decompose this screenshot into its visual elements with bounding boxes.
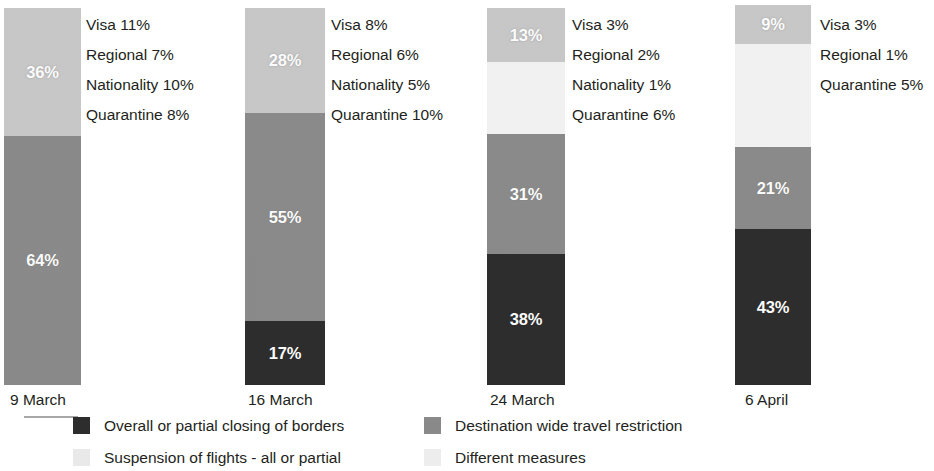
- segment-value-label: 43%: [757, 299, 789, 316]
- breakdown-label: Regional 7%: [86, 40, 194, 70]
- bar-segment[interactable]: 43%: [735, 229, 811, 385]
- legend-item[interactable]: Different measures: [424, 449, 586, 466]
- segment-value-label: 28%: [269, 52, 301, 69]
- bar-segment[interactable]: 13%: [487, 8, 565, 62]
- legend-swatch: [73, 449, 90, 466]
- swatch-texture: [73, 449, 90, 466]
- breakdown-label: Visa 8%: [331, 10, 443, 40]
- bar-stack: 9%21%43%: [735, 5, 811, 385]
- breakdown-label: Visa 3%: [820, 10, 923, 40]
- legend-label: Overall or partial closing of borders: [104, 418, 344, 434]
- breakdown-label: Quarantine 10%: [331, 100, 443, 130]
- bar-segment[interactable]: 9%: [735, 5, 811, 44]
- bar-segment[interactable]: [735, 44, 811, 147]
- breakdown-label: Quarantine 8%: [86, 100, 194, 130]
- breakdown-label: Quarantine 5%: [820, 70, 923, 100]
- bar-segment[interactable]: [487, 62, 565, 134]
- segment-value-label: 38%: [510, 311, 542, 328]
- breakdown-label: Nationality 1%: [572, 70, 675, 100]
- x-axis-category-label: 24 March: [490, 392, 555, 408]
- swatch-texture: [424, 417, 441, 434]
- bar-segment[interactable]: 31%: [487, 134, 565, 254]
- segment-texture: [487, 62, 565, 134]
- breakdown-label: Regional 6%: [331, 40, 443, 70]
- bar-stack: 28%55%17%: [245, 8, 325, 385]
- segment-value-label: 9%: [761, 16, 784, 33]
- bar-breakdown-labels: Visa 11%Regional 7%Nationality 10%Quaran…: [86, 10, 194, 130]
- bar-breakdown-labels: Visa 3%Regional 1%Quarantine 5%: [820, 10, 923, 100]
- breakdown-label: Quarantine 6%: [572, 100, 675, 130]
- legend-label: Suspension of flights - all or partial: [104, 450, 341, 466]
- segment-value-label: 21%: [757, 180, 789, 197]
- breakdown-label: Regional 2%: [572, 40, 675, 70]
- bar-segment[interactable]: 36%: [4, 8, 81, 136]
- legend-label: Different measures: [455, 450, 586, 466]
- bar-segment[interactable]: 17%: [245, 321, 325, 385]
- x-axis-category-label: 16 March: [248, 392, 313, 408]
- segment-value-label: 17%: [269, 345, 301, 362]
- legend-label: Destination wide travel restriction: [455, 418, 682, 434]
- bar-stack: 13%31%38%: [487, 8, 565, 385]
- chart-legend: Overall or partial closing of bordersDes…: [0, 415, 934, 471]
- segment-value-label: 31%: [510, 186, 542, 203]
- bar-segment[interactable]: 55%: [245, 113, 325, 321]
- bar-segment[interactable]: 38%: [487, 254, 565, 385]
- breakdown-label: Visa 11%: [86, 10, 194, 40]
- bar-stack: 36%64%: [4, 8, 81, 385]
- legend-item[interactable]: Destination wide travel restriction: [424, 417, 682, 434]
- bar-breakdown-labels: Visa 3%Regional 2%Nationality 1%Quaranti…: [572, 10, 675, 130]
- segment-texture: [735, 44, 811, 147]
- segment-value-label: 36%: [26, 64, 58, 81]
- legend-swatch: [424, 449, 441, 466]
- stacked-bar-chart: 36%64%Visa 11%Regional 7%Nationality 10%…: [0, 0, 934, 471]
- bar-segment[interactable]: 21%: [735, 147, 811, 229]
- segment-value-label: 13%: [510, 27, 542, 44]
- legend-swatch: [424, 417, 441, 434]
- bar-breakdown-labels: Visa 8%Regional 6%Nationality 5%Quaranti…: [331, 10, 443, 130]
- segment-value-label: 55%: [269, 209, 301, 226]
- swatch-texture: [73, 417, 90, 434]
- breakdown-label: Regional 1%: [820, 40, 923, 70]
- x-axis-category-label: 9 March: [10, 392, 66, 408]
- breakdown-label: Visa 3%: [572, 10, 675, 40]
- breakdown-label: Nationality 10%: [86, 70, 194, 100]
- segment-value-label: 64%: [26, 252, 58, 269]
- legend-item[interactable]: Overall or partial closing of borders: [73, 417, 344, 434]
- bar-segment[interactable]: 28%: [245, 8, 325, 113]
- x-axis-category-label: 6 April: [745, 392, 788, 408]
- legend-swatch: [73, 417, 90, 434]
- legend-item[interactable]: Suspension of flights - all or partial: [73, 449, 341, 466]
- swatch-texture: [424, 449, 441, 466]
- bar-segment[interactable]: 64%: [4, 136, 81, 385]
- breakdown-label: Nationality 5%: [331, 70, 443, 100]
